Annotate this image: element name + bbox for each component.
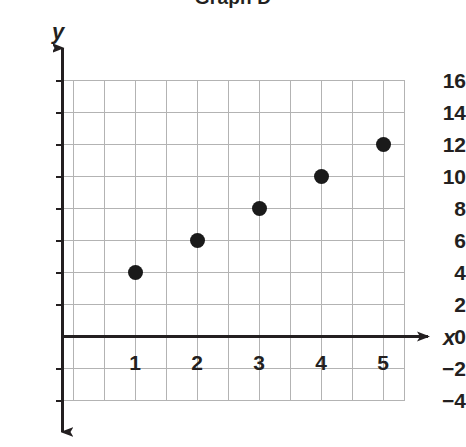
data-point [190, 233, 205, 248]
data-point [314, 169, 329, 184]
grid-lines [63, 81, 405, 401]
data-point [252, 201, 267, 216]
y-axis-label: y [52, 21, 64, 43]
chart-figure: Graph D [0, 0, 466, 447]
data-point [376, 137, 391, 152]
x-axis-label: x [443, 327, 455, 349]
plot-area [0, 0, 466, 447]
data-point [128, 265, 143, 280]
